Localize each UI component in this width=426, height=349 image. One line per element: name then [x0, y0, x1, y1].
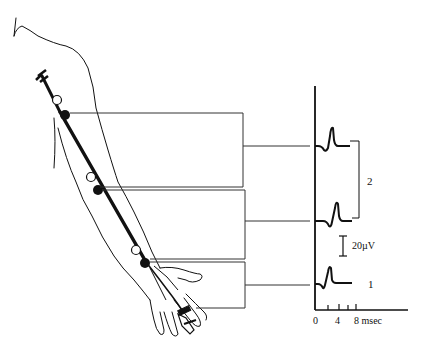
trace-proximal	[315, 128, 350, 151]
scale-bar-icon	[339, 236, 347, 256]
scale-bar-label: 20µV	[352, 241, 375, 251]
figure: 2 1 20µV 0 4 8 msec	[0, 0, 426, 349]
nerve-conduction-diagram	[0, 0, 426, 349]
trace-axes	[315, 86, 408, 310]
anode-wrist-icon	[132, 246, 141, 255]
anode-elbow-icon	[87, 173, 96, 182]
cathode-proximal-icon	[60, 110, 70, 120]
waveforms	[315, 128, 352, 289]
trace-label-2: 2	[367, 176, 373, 187]
arm-outline	[14, 18, 207, 336]
tick-label-8-msec: 8 msec	[354, 316, 382, 326]
bracket	[350, 141, 359, 218]
cathode-wrist-icon	[140, 258, 150, 268]
trace-label-1: 1	[368, 279, 374, 290]
tick-label-4: 4	[335, 316, 340, 326]
anode-proximal-icon	[53, 96, 62, 105]
trace-elbow	[315, 203, 352, 227]
trace-wrist	[315, 267, 352, 288]
tick-label-0: 0	[313, 316, 318, 326]
